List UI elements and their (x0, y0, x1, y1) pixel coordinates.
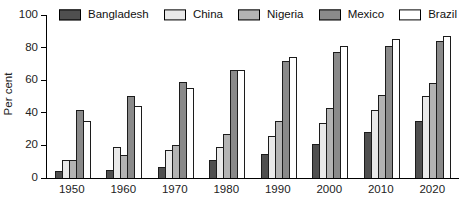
y-tick-mark-60 (41, 80, 46, 81)
bar-brazil-2020 (443, 36, 451, 178)
x-label-1990: 1990 (265, 183, 291, 195)
bar-brazil-2000 (340, 46, 348, 178)
x-label-1970: 1970 (162, 183, 188, 195)
bar-brazil-2010 (392, 39, 400, 178)
y-tick-mark-80 (41, 47, 46, 48)
x-label-1960: 1960 (110, 183, 136, 195)
x-label-1980: 1980 (213, 183, 239, 195)
bar-group-1970 (150, 15, 202, 178)
y-tick-label-20: 20 (0, 138, 38, 150)
urban-population-bar-chart: Per cent BangladeshChinaNigeriaMexicoBra… (0, 0, 462, 202)
y-tick-mark-0 (41, 178, 46, 179)
bar-brazil-1990 (289, 57, 297, 178)
bar-group-2020 (408, 15, 460, 178)
y-tick-mark-20 (41, 145, 46, 146)
bar-brazil-1950 (83, 121, 91, 178)
y-tick-label-60: 60 (0, 73, 38, 85)
bar-brazil-1980 (237, 70, 245, 178)
x-label-2010: 2010 (368, 183, 394, 195)
bar-groups (47, 15, 459, 178)
bar-group-1950 (47, 15, 99, 178)
bar-group-1980 (202, 15, 254, 178)
plot-area: BangladeshChinaNigeriaMexicoBrazil (46, 15, 459, 179)
bar-group-2000 (305, 15, 357, 178)
bar-brazil-1960 (134, 106, 142, 178)
x-label-2020: 2020 (419, 183, 445, 195)
bar-group-1990 (253, 15, 305, 178)
x-label-1950: 1950 (59, 183, 85, 195)
bar-group-1960 (99, 15, 151, 178)
y-tick-label-0: 0 (0, 171, 38, 183)
bar-group-2010 (356, 15, 408, 178)
y-tick-label-100: 100 (0, 8, 38, 20)
y-tick-label-40: 40 (0, 106, 38, 118)
bar-brazil-1970 (186, 88, 194, 178)
y-axis-title: Per cent (2, 59, 14, 129)
x-label-2000: 2000 (316, 183, 342, 195)
y-tick-mark-100 (41, 15, 46, 16)
y-tick-label-80: 80 (0, 41, 38, 53)
y-tick-mark-40 (41, 112, 46, 113)
